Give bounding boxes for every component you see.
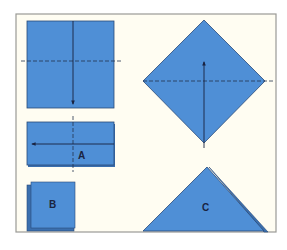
label-c: C (202, 202, 209, 213)
step-rectangle-a: A (27, 116, 115, 172)
paper-square (27, 21, 114, 108)
step-square (21, 21, 121, 108)
folding-diagram: A B C (0, 0, 287, 250)
step-square-b: B (27, 182, 75, 231)
label-a: A (78, 150, 85, 161)
label-b: B (49, 199, 56, 210)
paper-rectangle (27, 122, 114, 165)
